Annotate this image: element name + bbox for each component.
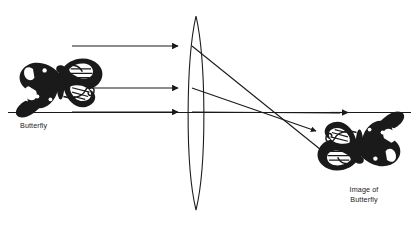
image-label-butterfly: Image ofButterfly (336, 185, 392, 204)
optics-ray-diagram: Butterfly Image ofButterfly (0, 0, 411, 228)
image-label-line2: Butterfly (350, 195, 377, 204)
object-butterfly (16, 59, 103, 118)
refracted-ray-middle (192, 88, 316, 131)
object-label-butterfly: Butterfly (20, 121, 47, 131)
image-butterfly (318, 112, 405, 171)
image-label-line1: Image of (350, 185, 379, 194)
refracted-ray-top (192, 46, 336, 162)
refracted-rays (192, 46, 340, 162)
